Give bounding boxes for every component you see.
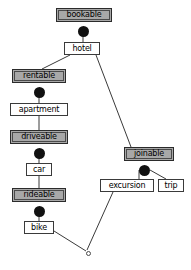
join-vertex [86, 251, 91, 256]
node-label-rideable: rideable [14, 190, 64, 200]
node-rentable[interactable]: rentable [12, 69, 66, 83]
node-car[interactable]: car [26, 163, 52, 176]
node-driveable[interactable]: driveable [10, 130, 68, 144]
edge-bike-vertex [54, 231, 86, 251]
edge-hotel-joinable [96, 55, 131, 147]
node-label-driveable: driveable [12, 132, 66, 142]
node-label-rentable: rentable [14, 71, 64, 81]
node-label-bookable: bookable [58, 10, 110, 20]
disc-rentable [34, 87, 45, 98]
disc-driveable [34, 148, 45, 159]
node-apartment[interactable]: apartment [10, 103, 68, 116]
node-bookable[interactable]: bookable [56, 8, 112, 22]
disc-joinable [139, 165, 150, 176]
diagram-canvas: bookablehotelrentableapartmentdriveablec… [0, 0, 191, 270]
disc-bookable [78, 26, 89, 37]
edge-joinable-trip [150, 170, 166, 179]
node-excursion[interactable]: excursion [100, 179, 154, 192]
node-hotel[interactable]: hotel [64, 42, 100, 55]
node-label-joinable: joinable [126, 149, 172, 159]
edge-excursion-vertex [87, 192, 113, 250]
node-joinable[interactable]: joinable [124, 147, 174, 161]
edge-hotel-rentable [42, 55, 70, 69]
node-rideable[interactable]: rideable [12, 188, 66, 202]
node-trip[interactable]: trip [158, 179, 184, 192]
node-bike[interactable]: bike [24, 221, 54, 234]
disc-rideable [34, 206, 45, 217]
